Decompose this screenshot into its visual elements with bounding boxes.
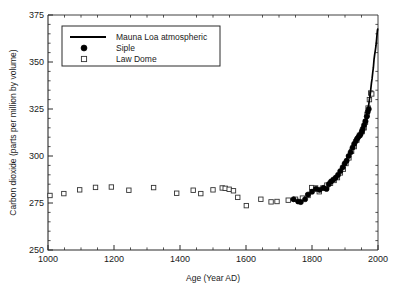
y-tick-label: 275 [29,198,44,208]
x-tick-label: 1000 [38,254,58,264]
x-tick-label: 1600 [236,254,256,264]
data-point-law-dome [275,199,279,203]
data-point-law-dome [236,195,240,199]
data-point-law-dome [244,203,248,207]
legend-marker-filled-circle [81,45,87,51]
data-point-siple [324,186,329,191]
co2-record-chart: 2502753003253503751000120014001600180020… [0,0,408,294]
x-tick-label: 1800 [302,254,322,264]
data-point-law-dome [227,187,231,191]
y-tick-label: 350 [29,57,44,67]
y-tick-label: 325 [29,104,44,114]
x-tick-label: 1200 [104,254,124,264]
series-siple [291,106,371,204]
data-point-law-dome [211,188,215,192]
data-point-law-dome [109,185,113,189]
data-point-law-dome [175,191,179,195]
data-point-law-dome [286,198,290,202]
data-point-law-dome [231,189,235,193]
data-point-law-dome [62,191,66,195]
data-point-law-dome [93,185,97,189]
x-tick-label: 2000 [368,254,388,264]
data-point-law-dome [191,188,195,192]
legend-label-3: Law Dome [116,54,157,64]
data-point-law-dome [269,200,273,204]
legend: Mauna Loa atmosphericSipleLaw Dome [62,26,220,66]
data-point-siple [302,197,307,202]
data-point-law-dome [77,188,81,192]
y-tick-label: 375 [29,10,44,20]
x-tick-label: 1400 [170,254,190,264]
data-point-law-dome [151,185,155,189]
legend-marker-open-square [81,56,86,61]
chart-figure: 2502753003253503751000120014001600180020… [0,0,408,294]
legend-label-1: Mauna Loa atmospheric [116,32,208,42]
y-tick-label: 300 [29,151,44,161]
y-axis-title: Carbon dioxide (parts per million by vol… [8,49,18,215]
legend-label-2: Siple [116,43,135,53]
data-point-law-dome [48,193,52,197]
data-point-law-dome [127,188,131,192]
data-point-law-dome [259,197,263,201]
data-point-law-dome [199,191,203,195]
x-axis-title: Age (Year AD) [186,273,240,283]
